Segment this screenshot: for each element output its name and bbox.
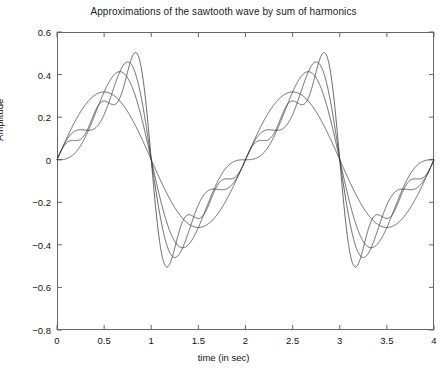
tick-marks	[57, 32, 434, 330]
series-line	[57, 52, 434, 266]
y-tick-label: −0.8	[11, 325, 51, 336]
sawtooth-harmonics-figure: Approximations of the sawtooth wave by s…	[0, 0, 447, 373]
y-tick-label: −0.2	[11, 197, 51, 208]
x-tick-label: 1	[131, 335, 171, 346]
y-tick-label: −0.4	[11, 239, 51, 250]
x-tick-label: 1.5	[178, 335, 218, 346]
y-tick-label: 0.2	[11, 112, 51, 123]
axis-frame	[58, 33, 434, 330]
x-tick-label: 3	[320, 335, 360, 346]
x-axis-label: time (in sec)	[0, 352, 447, 363]
x-tick-label: 2	[226, 335, 266, 346]
y-axis-label: Amplitude	[0, 99, 5, 141]
series-lines	[57, 52, 434, 266]
plot-canvas	[57, 32, 434, 330]
y-tick-label: 0.6	[11, 27, 51, 38]
x-tick-label: 0	[37, 335, 77, 346]
y-tick-label: 0	[11, 154, 51, 165]
x-tick-label: 3.5	[367, 335, 407, 346]
x-tick-label: 0.5	[84, 335, 124, 346]
chart-title: Approximations of the sawtooth wave by s…	[0, 6, 447, 17]
y-tick-label: −0.6	[11, 282, 51, 293]
y-tick-label: 0.4	[11, 69, 51, 80]
plot-area	[57, 32, 434, 330]
x-tick-label: 2.5	[273, 335, 313, 346]
x-tick-label: 4	[414, 335, 447, 346]
